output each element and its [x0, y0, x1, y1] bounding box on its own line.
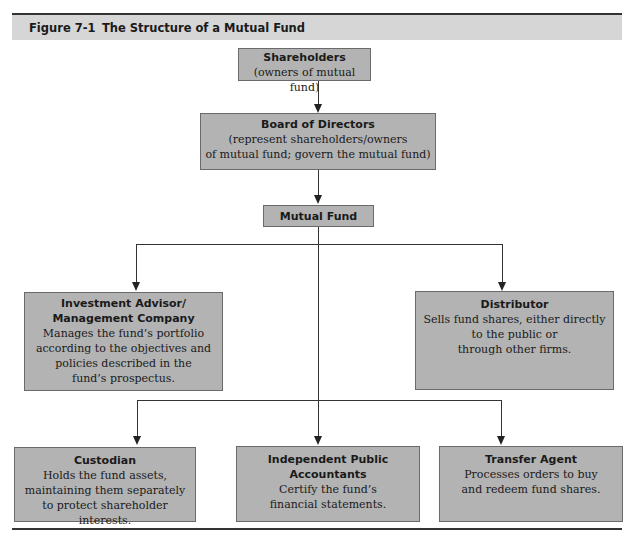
- node-title: Investment Advisor/ Management Company: [25, 296, 222, 326]
- connector: [502, 244, 503, 282]
- node-title: Board of Directors: [201, 117, 435, 132]
- connector: [136, 244, 137, 282]
- connector: [501, 400, 502, 437]
- node-mutual-fund: Mutual Fund: [263, 205, 374, 227]
- connector: [318, 81, 319, 106]
- node-desc: Sells fund shares, either directly to th…: [416, 312, 613, 357]
- node-title: Distributor: [416, 297, 613, 312]
- node-transfer-agent: Transfer Agent Processes orders to buy a…: [439, 446, 623, 522]
- arrow-down-icon: [314, 104, 322, 113]
- arrow-down-icon: [132, 282, 140, 291]
- figure-header: Figure 7-1 The Structure of a Mutual Fun…: [12, 15, 622, 40]
- figure-title: The Structure of a Mutual Fund: [102, 21, 305, 35]
- node-title: Transfer Agent: [440, 452, 622, 467]
- node-title: Independent Public Accountants: [237, 452, 419, 482]
- connector: [318, 170, 319, 198]
- node-desc: Certify the fund’s financial statements.: [237, 482, 419, 512]
- node-investment-advisor: Investment Advisor/ Management Company M…: [24, 292, 223, 391]
- arrow-down-icon: [498, 282, 506, 291]
- node-desc: (owners of mutual fund): [239, 65, 370, 95]
- node-shareholders: Shareholders (owners of mutual fund): [238, 48, 371, 81]
- node-desc: (represent shareholders/owners of mutual…: [201, 132, 435, 162]
- arrow-down-icon: [133, 436, 141, 445]
- arrow-down-icon: [314, 436, 322, 445]
- node-desc: Manages the fund’s portfolio according t…: [25, 326, 222, 386]
- connector: [318, 400, 319, 437]
- arrow-down-icon: [314, 195, 322, 204]
- node-distributor: Distributor Sells fund shares, either di…: [415, 291, 614, 390]
- node-desc: Holds the fund assets, maintaining them …: [15, 468, 195, 528]
- figure-number: Figure 7-1: [29, 21, 95, 35]
- node-title: Shareholders: [239, 50, 370, 65]
- node-independent-public-accountants: Independent Public Accountants Certify t…: [236, 446, 420, 522]
- node-desc: Processes orders to buy and redeem fund …: [440, 467, 622, 497]
- bottom-rule: [12, 528, 622, 530]
- node-title: Custodian: [15, 453, 195, 468]
- connector: [318, 227, 319, 405]
- node-board-of-directors: Board of Directors (represent shareholde…: [200, 113, 436, 170]
- connector: [137, 400, 501, 401]
- arrow-down-icon: [497, 436, 505, 445]
- connector: [136, 244, 502, 245]
- node-custodian: Custodian Holds the fund assets, maintai…: [14, 447, 196, 522]
- connector: [137, 400, 138, 437]
- node-title: Mutual Fund: [264, 209, 373, 224]
